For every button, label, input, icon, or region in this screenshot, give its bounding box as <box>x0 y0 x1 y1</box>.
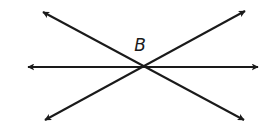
point-label-b: B <box>134 35 146 55</box>
lines-group <box>28 11 258 120</box>
lines-svg: B <box>0 0 264 129</box>
diagram-canvas: B <box>0 0 264 129</box>
